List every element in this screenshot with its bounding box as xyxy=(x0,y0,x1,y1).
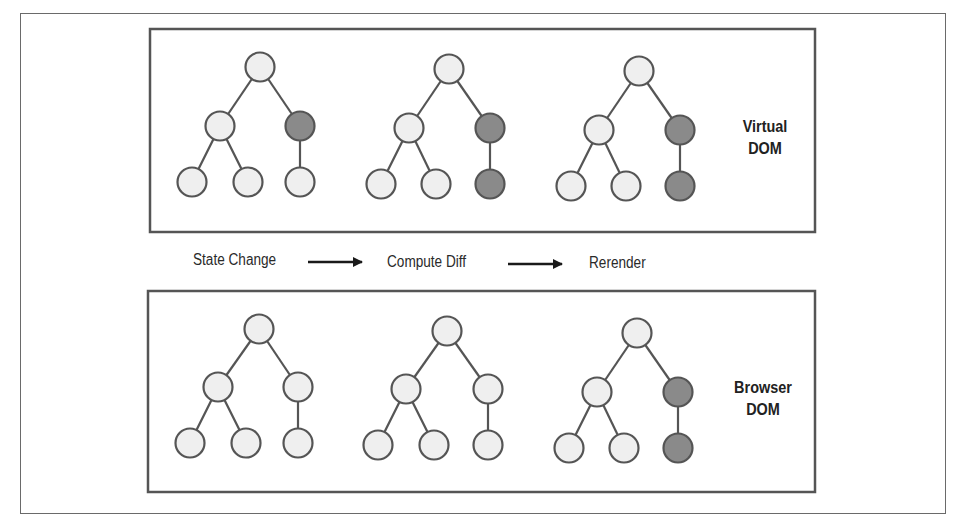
browser-dom-label-line1: Browser xyxy=(729,377,797,399)
tree-node-leaf xyxy=(284,429,313,458)
tree-node-leaf xyxy=(557,172,586,201)
tree-node-root xyxy=(433,317,462,346)
browser-tree-3 xyxy=(555,319,693,463)
tree-node-right-changed xyxy=(664,378,693,407)
browser-dom-label: Browser DOM xyxy=(729,377,797,421)
tree-node-root xyxy=(623,319,652,348)
tree-node-left xyxy=(204,373,233,402)
tree-node-leaf-changed xyxy=(666,172,695,201)
tree-node-leaf xyxy=(555,434,584,463)
tree-node-left xyxy=(583,378,612,407)
browser-tree-1 xyxy=(176,315,313,458)
tree-node-right xyxy=(284,373,313,402)
tree-node-leaf xyxy=(367,170,396,199)
virtual-tree-3 xyxy=(557,57,695,201)
tree-node-root xyxy=(625,57,654,86)
tree-node-leaf xyxy=(612,172,641,201)
tree-node-leaf xyxy=(420,431,449,460)
tree-node-left xyxy=(206,112,235,141)
tree-node-right-changed xyxy=(666,116,695,145)
diagram-canvas xyxy=(0,0,961,519)
step-compute-diff: Compute Diff xyxy=(387,253,466,271)
tree-node-left xyxy=(585,116,614,145)
tree-node-leaf xyxy=(176,429,205,458)
tree-node-leaf-changed xyxy=(664,434,693,463)
tree-node-right-changed xyxy=(476,114,505,143)
virtual-dom-label-line1: Virtual xyxy=(731,116,799,138)
step-rerender: Rerender xyxy=(589,254,646,272)
tree-node-root xyxy=(245,315,274,344)
browser-dom-label-line2: DOM xyxy=(729,399,797,421)
virtual-tree-2 xyxy=(367,55,505,199)
tree-node-right xyxy=(474,375,503,404)
tree-node-leaf-changed xyxy=(476,170,505,199)
tree-node-leaf xyxy=(364,431,393,460)
tree-node-left xyxy=(395,114,424,143)
virtual-dom-label-line2: DOM xyxy=(731,138,799,160)
tree-node-leaf xyxy=(474,431,503,460)
step-state-change: State Change xyxy=(193,251,276,269)
tree-node-right-changed xyxy=(286,112,315,141)
tree-node-leaf xyxy=(178,168,207,197)
tree-node-leaf xyxy=(232,429,261,458)
tree-node-left xyxy=(392,375,421,404)
tree-node-leaf xyxy=(610,434,639,463)
tree-node-leaf xyxy=(286,168,315,197)
tree-node-root xyxy=(246,53,275,82)
tree-node-leaf xyxy=(422,170,451,199)
tree-node-leaf xyxy=(234,168,263,197)
browser-tree-2 xyxy=(364,317,503,460)
tree-node-root xyxy=(435,55,464,84)
virtual-dom-label: Virtual DOM xyxy=(731,116,799,160)
virtual-tree-1 xyxy=(178,53,315,197)
